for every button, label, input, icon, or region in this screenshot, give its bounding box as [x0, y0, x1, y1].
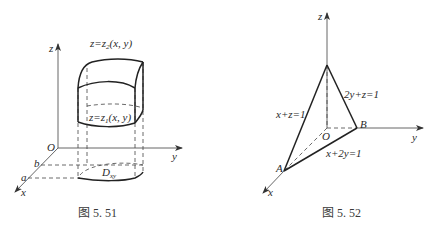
bottom-surface-label: z=z1(x, y) [88, 111, 131, 125]
figure-5-51: z y x O b a z=z2(x, y) z=z1(x, y) Dxy [15, 37, 182, 220]
y-axis-label: y [411, 131, 417, 143]
z-axis-label: z [48, 42, 54, 54]
x-axis [263, 171, 284, 193]
plane-yz-label: 2y+z=1 [344, 88, 379, 100]
x-axis-label: x [20, 186, 26, 198]
region-label: Dxy [101, 166, 117, 180]
y-axis-label: y [171, 150, 177, 162]
figures-canvas: z y x O b a z=z2(x, y) z=z1(x, y) Dxy [0, 0, 433, 230]
a-label: a [21, 171, 27, 183]
point-a-label: A [275, 162, 283, 174]
origin-label: O [47, 141, 55, 153]
b-label: b [34, 157, 40, 169]
figure-5-52: z y x O A B x+z=1 2y+z=1 x+2y=1 图 5. 52 [263, 10, 423, 220]
plane-xz-label: x+z=1 [275, 108, 306, 120]
x-axis-label: x [267, 186, 273, 198]
bottom-surface-right-edge [135, 110, 143, 123]
z-axis-label: z [317, 10, 323, 22]
top-surface-label: z=z2(x, y) [89, 37, 132, 51]
top-surface-right-edge [135, 62, 143, 88]
top-surface-front-edge [78, 82, 135, 88]
point-b-label: B [360, 118, 367, 130]
figure-caption-5-51: 图 5. 51 [78, 206, 117, 220]
line-xy-label: x+2y=1 [325, 147, 362, 159]
figure-caption-5-52: 图 5. 52 [322, 206, 361, 220]
origin-label: O [322, 130, 330, 142]
